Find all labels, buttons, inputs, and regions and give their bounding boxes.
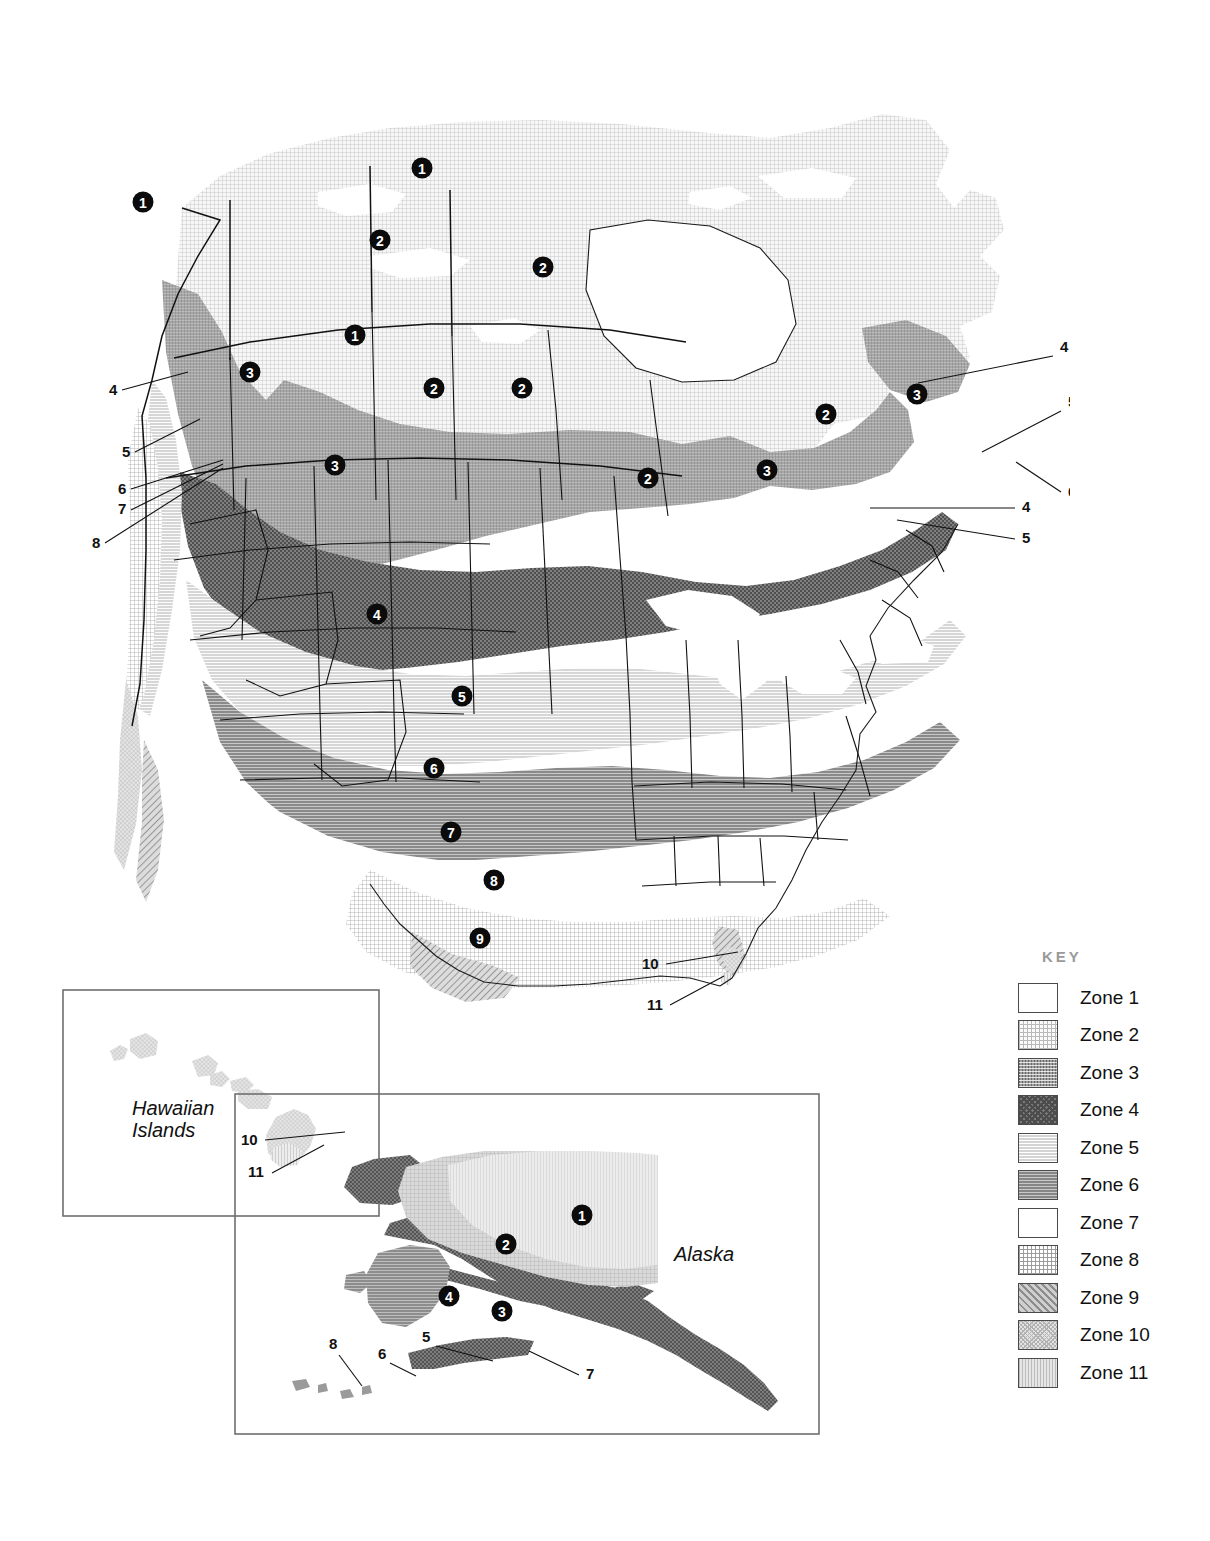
zone-10-swatch [1018, 1320, 1058, 1350]
main-map-badge-zone-3: 3 [907, 384, 928, 405]
main-map-leader-6-7: 6 [1016, 462, 1070, 500]
badge-number: 3 [763, 463, 771, 479]
leader-label: 5 [1022, 529, 1030, 546]
badge-number: 3 [913, 387, 921, 403]
main-map-badge-zone-5: 5 [452, 686, 473, 707]
key-row-zone-9[interactable]: Zone 9 [1018, 1279, 1198, 1317]
leader-label: 4 [109, 381, 118, 398]
badge-number: 7 [447, 825, 455, 841]
key-label-zone-2: Zone 2 [1080, 1024, 1139, 1046]
zone-3-swatch [1018, 1058, 1058, 1088]
key-row-zone-7[interactable]: Zone 7 [1018, 1204, 1198, 1242]
key-row-zone-2[interactable]: Zone 2 [1018, 1017, 1198, 1055]
badge-number: 1 [578, 1208, 586, 1224]
leader-line [339, 1355, 362, 1386]
leader-label: 6 [1068, 483, 1070, 500]
main-map-badge-zone-2: 2 [512, 378, 533, 399]
zone-1-swatch [1018, 983, 1058, 1013]
key-row-zone-11[interactable]: Zone 11 [1018, 1354, 1198, 1392]
main-map-badge-zone-1: 1 [412, 158, 433, 179]
zone-7-swatch [1018, 1208, 1058, 1238]
badge-number: 3 [498, 1304, 506, 1320]
main-map-badge-zone-2: 2 [533, 257, 554, 278]
badge-number: 2 [822, 407, 830, 423]
alaska-leader-7-3: 7 [529, 1351, 594, 1382]
main-map-badge-zone-2: 2 [816, 404, 837, 425]
alaska-inset-title: Alaska [673, 1243, 734, 1265]
zone-2-swatch [1018, 1020, 1058, 1050]
badge-number: 2 [502, 1237, 510, 1253]
leader-label: 5 [122, 443, 130, 460]
badge-number: 1 [418, 161, 426, 177]
badge-number: 2 [430, 381, 438, 397]
zone-5-swatch [1018, 1133, 1058, 1163]
main-map-badge-zone-7: 7 [441, 822, 462, 843]
key-row-zone-8[interactable]: Zone 8 [1018, 1242, 1198, 1280]
zone-6-swatch [1018, 1170, 1058, 1200]
map-key: KEY Zone 1Zone 2Zone 3Zone 4Zone 5Zone 6… [1018, 948, 1198, 1392]
leader-line [982, 411, 1061, 452]
leader-label: 10 [642, 955, 659, 972]
key-label-zone-4: Zone 4 [1080, 1099, 1139, 1121]
north-america-map: 1122132223323456789 45678456451011 [70, 80, 1070, 1010]
badge-number: 2 [376, 233, 384, 249]
badge-number: 8 [490, 873, 498, 889]
hawaii-inset-title-line2: Islands [132, 1119, 195, 1141]
badge-number: 5 [458, 689, 466, 705]
main-map-badge-zone-3: 3 [757, 460, 778, 481]
badge-number: 3 [331, 458, 339, 474]
leader-label: 4 [1060, 338, 1069, 355]
leader-label: 11 [647, 996, 663, 1010]
zone-11-swatch [1018, 1358, 1058, 1388]
key-row-zone-10[interactable]: Zone 10 [1018, 1317, 1198, 1355]
key-label-zone-1: Zone 1 [1080, 987, 1139, 1009]
badge-number: 2 [518, 381, 526, 397]
key-label-zone-11: Zone 11 [1080, 1362, 1148, 1384]
leader-label: 6 [378, 1345, 386, 1362]
alaska-zone-4-area [366, 1245, 450, 1327]
leader-label: 8 [329, 1335, 337, 1352]
main-map-badge-zone-2: 2 [424, 378, 445, 399]
leader-label: 8 [92, 534, 100, 551]
key-title: KEY [1042, 948, 1198, 965]
badge-number: 9 [476, 931, 484, 947]
alaska-badge-zone-4: 4 [439, 1286, 460, 1307]
alaska-leader-8-0: 8 [329, 1335, 362, 1386]
key-label-zone-5: Zone 5 [1080, 1137, 1139, 1159]
key-row-zone-6[interactable]: Zone 6 [1018, 1167, 1198, 1205]
alaska-badge-zone-1: 1 [572, 1205, 593, 1226]
alaska-badge-zone-2: 2 [496, 1234, 517, 1255]
alaska-aleutian-islands [292, 1379, 372, 1399]
key-label-zone-8: Zone 8 [1080, 1249, 1139, 1271]
main-map-badge-zone-9: 9 [470, 928, 491, 949]
leader-line [529, 1351, 579, 1375]
badge-number: 3 [246, 365, 254, 381]
key-rows: Zone 1Zone 2Zone 3Zone 4Zone 5Zone 6Zone… [1018, 979, 1198, 1392]
leader-label: 5 [1068, 393, 1070, 410]
key-row-zone-3[interactable]: Zone 3 [1018, 1054, 1198, 1092]
hawaii-inset-title-line1: Hawaiian [132, 1097, 214, 1119]
main-map-badge-zone-1: 1 [345, 325, 366, 346]
key-row-zone-1[interactable]: Zone 1 [1018, 979, 1198, 1017]
alaska-inset: Alaska 1243 8657 [234, 1093, 820, 1435]
main-map-badge-zone-2: 2 [370, 230, 391, 251]
leader-label: 4 [1022, 498, 1031, 515]
page-canvas: 1122132223323456789 45678456451011 [0, 0, 1210, 1541]
key-row-zone-4[interactable]: Zone 4 [1018, 1092, 1198, 1130]
key-row-zone-5[interactable]: Zone 5 [1018, 1129, 1198, 1167]
key-label-zone-9: Zone 9 [1080, 1287, 1139, 1309]
badge-number: 1 [351, 328, 359, 344]
zone-9-swatch [1018, 1283, 1058, 1313]
main-map-badge-zone-3: 3 [240, 362, 261, 383]
badge-number: 1 [139, 195, 147, 211]
key-label-zone-3: Zone 3 [1080, 1062, 1139, 1084]
badge-number: 2 [539, 260, 547, 276]
badge-number: 6 [430, 761, 438, 777]
main-map-badge-zone-1: 1 [133, 192, 154, 213]
leader-label: 7 [118, 500, 126, 517]
leader-label: 6 [118, 480, 126, 497]
main-map-badge-zone-4: 4 [367, 604, 388, 625]
leader-label: 5 [422, 1328, 430, 1345]
badge-number: 4 [373, 607, 381, 623]
key-label-zone-7: Zone 7 [1080, 1212, 1139, 1234]
